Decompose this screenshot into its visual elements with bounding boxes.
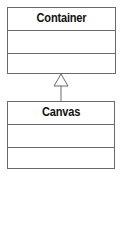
- attributes-section: [8, 124, 114, 147]
- operations-section: [8, 147, 114, 168]
- class-name: Canvas: [12, 102, 110, 123]
- class-box-canvas: Canvas: [7, 101, 115, 169]
- hollow-triangle-icon: [54, 74, 68, 86]
- class-name-section: Canvas: [8, 102, 114, 124]
